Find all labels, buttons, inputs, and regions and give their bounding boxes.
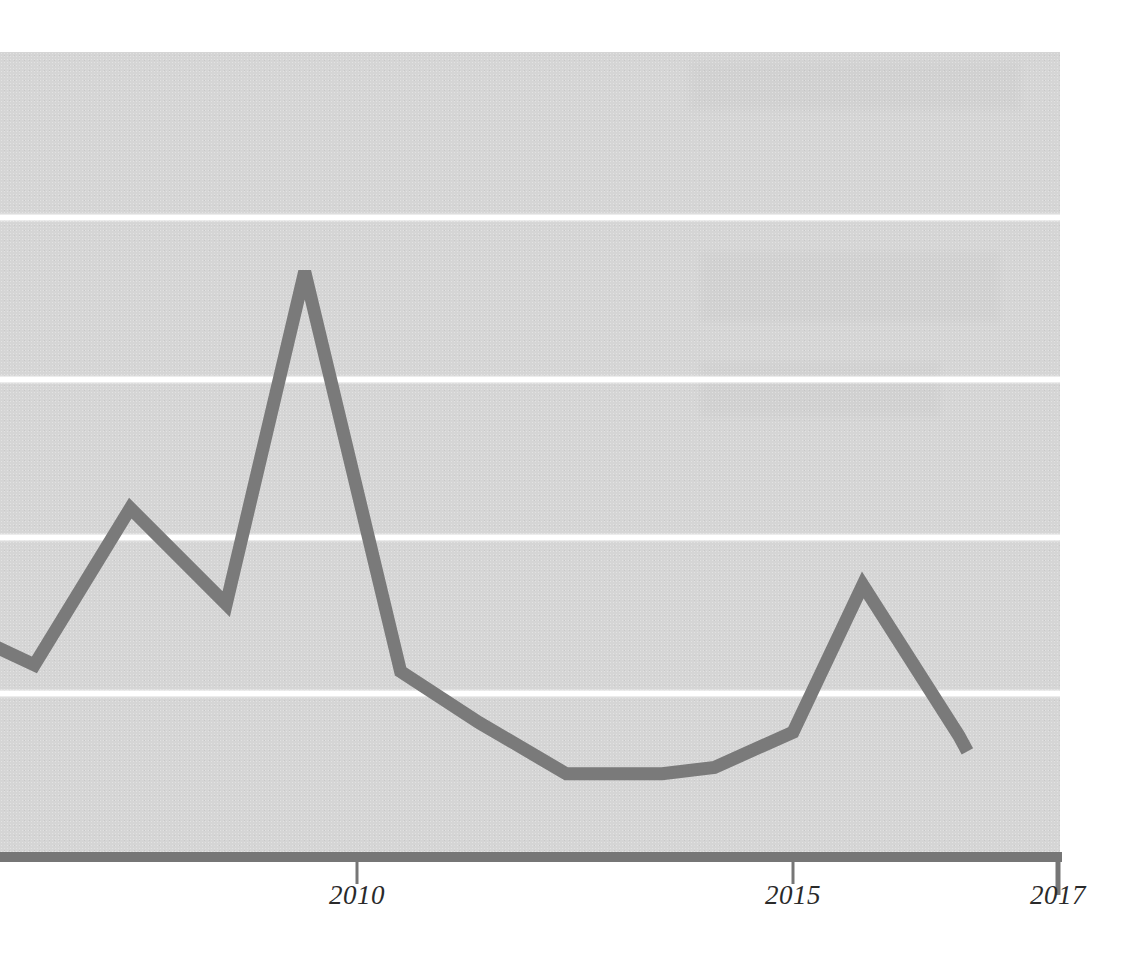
- gridline-2: [0, 377, 1060, 382]
- x-axis-tick-label: 2010: [329, 880, 385, 911]
- page-bleed-artifact: [700, 252, 1000, 322]
- paper-grain-texture: [0, 52, 1060, 858]
- x-axis-line: [0, 852, 1062, 862]
- line-chart-figure: 201020152017: [0, 0, 1125, 964]
- x-axis-tick-label: 2015: [765, 880, 821, 911]
- plot-area: [0, 52, 1060, 858]
- gridline-1: [0, 215, 1060, 220]
- x-axis-tick-label: 2017: [1030, 880, 1086, 911]
- gridline-4: [0, 691, 1060, 696]
- page-bleed-artifact: [700, 362, 940, 417]
- gridline-3: [0, 535, 1060, 540]
- page-bleed-artifact: [690, 62, 1020, 110]
